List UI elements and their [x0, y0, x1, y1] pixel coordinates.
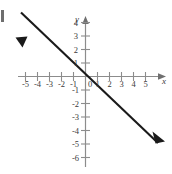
x-tick-label--3: -3	[46, 79, 53, 89]
x-axis-label: x	[161, 76, 166, 86]
graph-line-arrow-left-icon	[16, 37, 28, 48]
x-tick-label--4: -4	[34, 79, 42, 89]
x-tick-label--5: -5	[22, 79, 29, 89]
graph-line-arrow-right-icon	[153, 132, 166, 144]
line-graph-plot: -5 -4 -3 -2 -1 1 2 3 4 5 0 4 3 2 1 -1 -2…	[0, 0, 172, 174]
y-axis-label: y	[74, 14, 79, 24]
y-tick-label-2: 2	[74, 45, 78, 55]
y-tick-label--5: -5	[72, 139, 79, 149]
y-tick-label--2: -2	[72, 99, 79, 109]
x-tick-label-1: 1	[95, 79, 99, 89]
y-tick-label--4: -4	[72, 126, 80, 136]
y-tick-label-3: 3	[74, 31, 78, 41]
x-tick-label--2: -2	[58, 79, 65, 89]
coordinate-plane-figure: -5 -4 -3 -2 -1 1 2 3 4 5 0 4 3 2 1 -1 -2…	[0, 0, 172, 174]
x-tick-label-4: 4	[131, 79, 136, 89]
x-tick-label-5: 5	[143, 79, 147, 89]
x-tick-label-2: 2	[107, 79, 111, 89]
y-tick-label--6: -6	[72, 153, 79, 163]
graph-line-segment	[21, 13, 158, 144]
y-tick-label--3: -3	[72, 112, 79, 122]
origin-label: 0	[88, 79, 92, 89]
x-tick-label-3: 3	[119, 79, 123, 89]
y-tick-label--1: -1	[72, 85, 79, 95]
y-tick-label-1: 1	[74, 58, 78, 68]
